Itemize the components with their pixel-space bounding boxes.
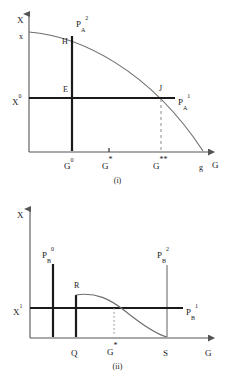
label-pa1: PA1 (178, 92, 190, 110)
ppf-curve (29, 32, 203, 151)
panel-ii-tick-q: Q (71, 343, 78, 359)
panel-ii-caption: (ii) (0, 362, 235, 371)
panel-ii-svg (0, 195, 235, 385)
panel-i-caption: (i) (0, 176, 235, 185)
reaction-curve (76, 294, 167, 337)
panel-ii-plot (0, 195, 235, 385)
panel-i: X x X0 PA2 PA1 H E J G0 G* G** g G (i) (0, 0, 235, 195)
panel-i-tick-x-zero: X0 (12, 92, 22, 108)
panel-ii-tick-g-star: G* (107, 342, 118, 358)
panel-i-tick-x-upper: x (19, 26, 23, 42)
panel-ii-x-axis-label: G (205, 343, 212, 359)
label-pa2: PA2 (76, 14, 88, 32)
label-pb2: PB2 (157, 245, 169, 263)
point-r: R (74, 282, 79, 290)
point-h: H (62, 38, 68, 46)
panel-i-x-axis-label: G (212, 155, 219, 171)
panel-ii: X X1 PB0 PB2 PB1 R Q G* S G (ii) (0, 195, 235, 385)
label-pb1: PB1 (186, 302, 198, 320)
panel-i-y-axis-label: X (17, 10, 24, 26)
panel-i-tick-g-end: g (199, 157, 203, 173)
panel-ii-tick-x-one: X1 (13, 302, 23, 318)
panel-ii-y-axis-label: X (17, 205, 24, 221)
panel-i-tick-g-doublestar: G** (153, 156, 168, 172)
point-e: E (63, 86, 68, 94)
panel-i-tick-g-star: G* (102, 156, 113, 172)
panel-i-tick-g-zero: G0 (64, 156, 74, 172)
point-j: J (159, 85, 162, 93)
panel-ii-tick-s: S (163, 343, 168, 359)
label-pb0: PB0 (42, 245, 54, 263)
